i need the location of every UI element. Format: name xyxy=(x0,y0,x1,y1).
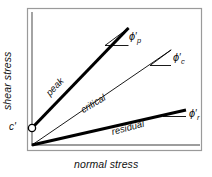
plot-canvas xyxy=(0,0,212,177)
phi-c-angle-hypotenuse xyxy=(150,50,171,66)
x-axis-title: normal stress xyxy=(74,159,138,170)
phi-subscript-peak: p xyxy=(137,36,141,45)
phi-subscript-critical: c xyxy=(181,57,185,66)
peak-envelope-line xyxy=(32,28,129,128)
phi-p-angle-hypotenuse xyxy=(105,28,129,46)
cohesion-intercept-marker xyxy=(28,124,35,131)
cohesion-intercept-label: c' xyxy=(9,122,16,132)
angle-label-phi-peak: ϕ′p xyxy=(129,31,141,44)
phi-subscript-residual: r xyxy=(197,113,200,122)
y-axis-title: shear stress xyxy=(2,52,13,110)
angle-label-phi-critical: ϕ′c xyxy=(173,52,185,65)
shear-strength-diagram: shear stress normal stress peak critical… xyxy=(0,0,212,177)
residual-envelope-line xyxy=(32,110,186,145)
angle-label-phi-residual: ϕ′r xyxy=(189,108,200,121)
